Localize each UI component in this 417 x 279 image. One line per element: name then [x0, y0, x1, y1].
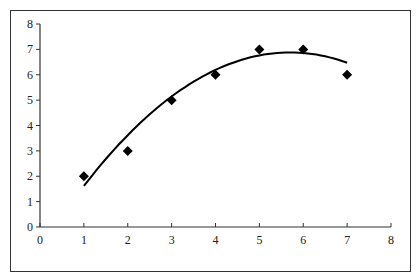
chart-frame: 012345678 012345678: [0, 0, 417, 279]
x-tick-label: 6: [300, 233, 306, 247]
x-tick-label: 4: [213, 233, 219, 247]
x-tick-label: 0: [37, 233, 43, 247]
x-tick-label: 2: [125, 233, 131, 247]
y-tick-label: 1: [27, 195, 33, 209]
chart-border: [11, 11, 411, 272]
y-tick-label: 6: [27, 68, 33, 82]
y-tick-label: 2: [27, 169, 33, 183]
scatter-chart: 012345678 012345678: [0, 0, 417, 279]
y-tick-label: 3: [27, 144, 33, 158]
y-tick-label: 8: [27, 17, 33, 31]
x-tick-label: 7: [344, 233, 350, 247]
y-tick-label: 7: [27, 42, 33, 56]
x-tick-label: 8: [388, 233, 394, 247]
y-tick-label: 0: [27, 220, 33, 234]
x-tick-label: 5: [256, 233, 262, 247]
x-tick-label: 1: [81, 233, 87, 247]
y-tick-label: 5: [27, 93, 33, 107]
y-tick-label: 4: [27, 119, 33, 133]
x-tick-label: 3: [169, 233, 175, 247]
